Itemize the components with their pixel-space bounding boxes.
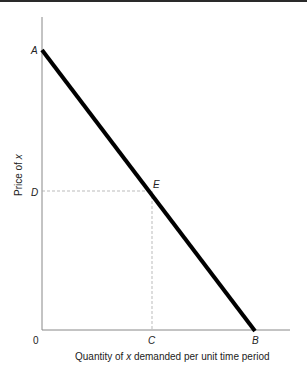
label-e: E bbox=[153, 179, 160, 190]
y-axis-title: Price of x bbox=[13, 153, 24, 196]
demand-curve bbox=[42, 50, 255, 331]
label-d: D bbox=[31, 187, 38, 198]
label-a: A bbox=[30, 45, 38, 56]
label-c: C bbox=[148, 335, 156, 346]
label-b: B bbox=[252, 335, 259, 346]
label-origin: 0 bbox=[33, 335, 39, 346]
demand-diagram: A D E 0 C B Quantity of x demanded per u… bbox=[0, 0, 307, 371]
x-axis-title: Quantity of x demanded per unit time per… bbox=[75, 351, 270, 362]
